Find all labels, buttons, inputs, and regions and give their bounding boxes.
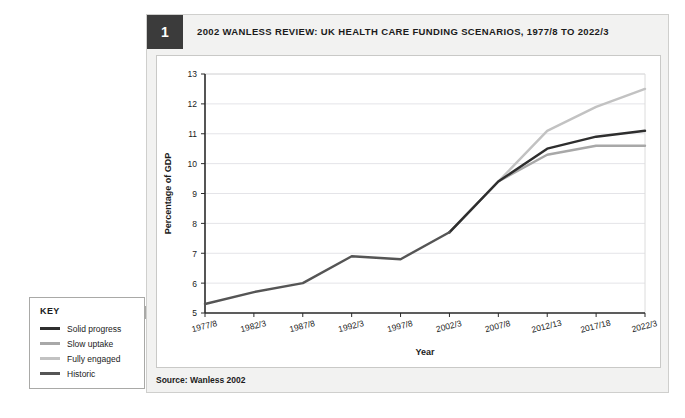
x-axis-title: Year	[415, 347, 435, 357]
ytick-label: 7	[192, 249, 197, 259]
ytick-label: 5	[192, 308, 197, 318]
key-label-historic: Historic	[67, 369, 95, 379]
key-label-fully-engaged: Fully engaged	[67, 354, 120, 364]
series-line-slow-uptake	[449, 146, 645, 233]
key-box: KEY Solid progress Slow uptake Fully eng…	[29, 297, 145, 389]
xtick-label: 2007/8	[484, 318, 512, 334]
key-item-slow-uptake: Slow uptake	[40, 336, 144, 351]
series-line-historic	[205, 232, 449, 304]
figure-panel: 1 2002 WANLESS REVIEW: UK HEALTH CARE FU…	[146, 14, 669, 393]
key-swatch-slow-uptake	[40, 342, 60, 345]
ytick-label: 13	[188, 69, 198, 79]
series-line-fully-engaged	[449, 89, 645, 232]
xtick-label: 2002/3	[435, 318, 463, 334]
source-caption: Source: Wanless 2002	[156, 375, 245, 385]
xtick-label: 2022/3	[630, 318, 658, 334]
key-item-fully-engaged: Fully engaged	[40, 351, 144, 366]
line-chart: 56789101112131977/81982/31987/81992/3199…	[157, 56, 660, 367]
key-title: KEY	[40, 306, 144, 316]
y-axis-title: Percentage of GDP	[163, 153, 173, 235]
xtick-label: 1982/3	[239, 318, 267, 334]
key-label-solid-progress: Solid progress	[67, 324, 121, 334]
key-item-solid-progress: Solid progress	[40, 321, 144, 336]
key-swatch-historic	[40, 372, 60, 375]
ytick-label: 6	[192, 279, 197, 289]
xtick-label: 1997/8	[386, 318, 414, 334]
key-swatch-fully-engaged	[40, 357, 60, 360]
key-swatch-solid-progress	[40, 327, 60, 330]
figure-header: 1 2002 WANLESS REVIEW: UK HEALTH CARE FU…	[147, 15, 670, 49]
ytick-label: 8	[192, 219, 197, 229]
figure-title: 2002 WANLESS REVIEW: UK HEALTH CARE FUND…	[183, 27, 670, 37]
xtick-label: 1987/8	[288, 318, 316, 334]
xtick-label: 1992/3	[337, 318, 365, 334]
figure-number-badge: 1	[147, 15, 183, 49]
ytick-label: 9	[192, 189, 197, 199]
xtick-label: 1977/8	[190, 318, 218, 334]
ytick-label: 12	[188, 99, 198, 109]
plot-card: 56789101112131977/81982/31987/81992/3199…	[156, 55, 661, 368]
key-label-slow-uptake: Slow uptake	[67, 339, 113, 349]
key-item-historic: Historic	[40, 366, 144, 381]
ytick-label: 10	[188, 159, 198, 169]
ytick-label: 11	[188, 129, 197, 139]
xtick-label: 2012/13	[530, 317, 562, 334]
xtick-label: 2017/18	[579, 317, 611, 334]
